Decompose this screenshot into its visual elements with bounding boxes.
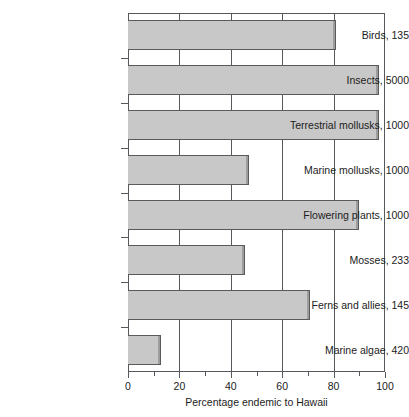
y-axis-tick bbox=[121, 193, 128, 194]
category-label: Birds, 135 bbox=[285, 29, 409, 41]
category-label: Insects, 5000 bbox=[285, 74, 409, 86]
x-axis-tick-label: 0 bbox=[113, 380, 143, 392]
y-axis-tick bbox=[121, 237, 128, 238]
x-axis-minor-tick-30 bbox=[205, 372, 206, 376]
x-axis-tick-label: 60 bbox=[267, 380, 297, 392]
x-axis-tick-label: 100 bbox=[370, 380, 400, 392]
category-label: Terrestrial mollusks, 1000 bbox=[285, 119, 409, 131]
x-axis-tick-label: 40 bbox=[216, 380, 246, 392]
category-label: Ferns and allies, 145 bbox=[285, 299, 409, 311]
bar-chart: Birds, 135Insects, 5000Terrestrial mollu… bbox=[0, 0, 409, 417]
x-axis-tick-0 bbox=[128, 372, 129, 378]
x-axis-tick-label: 80 bbox=[319, 380, 349, 392]
x-axis-tick-100 bbox=[385, 372, 386, 378]
category-label: Marine algae, 420 bbox=[285, 344, 409, 356]
bar-ferns-and-allies bbox=[128, 290, 310, 320]
y-axis-tick bbox=[121, 103, 128, 104]
x-axis-tick-40 bbox=[231, 372, 232, 378]
y-axis-tick bbox=[121, 282, 128, 283]
bar-marine-algae bbox=[128, 335, 161, 365]
x-axis-title: Percentage endemic to Hawaii bbox=[128, 396, 385, 408]
x-axis-minor-tick-50 bbox=[257, 372, 258, 376]
y-axis-tick bbox=[121, 327, 128, 328]
category-label: Marine mollusks, 1000 bbox=[285, 164, 409, 176]
x-axis-minor-tick-10 bbox=[154, 372, 155, 376]
x-axis-tick-80 bbox=[334, 372, 335, 378]
category-label: Flowering plants, 1000 bbox=[285, 209, 409, 221]
x-axis-minor-tick-90 bbox=[359, 372, 360, 376]
bar-marine-mollusks bbox=[128, 155, 249, 185]
x-axis-tick-60 bbox=[282, 372, 283, 378]
bar-mosses bbox=[128, 245, 245, 275]
y-axis-tick bbox=[121, 148, 128, 149]
x-axis-tick-label: 20 bbox=[164, 380, 194, 392]
y-axis-tick bbox=[121, 58, 128, 59]
category-label: Mosses, 233 bbox=[285, 254, 409, 266]
x-axis-tick-20 bbox=[179, 372, 180, 378]
x-axis-minor-tick-70 bbox=[308, 372, 309, 376]
